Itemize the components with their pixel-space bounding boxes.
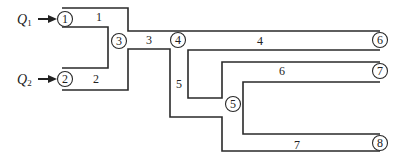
svg-text:1: 1 (62, 12, 68, 26)
node-1: 1 (58, 12, 73, 27)
inflow-q1-label: Q1 (17, 12, 32, 29)
node-4: 4 (171, 33, 186, 48)
pipe-wall-1-2-divider (62, 27, 108, 68)
svg-text:7: 7 (377, 64, 383, 78)
pipe-network-diagram: Q1 Q2 1 2 3 4 (0, 0, 402, 164)
svg-text:3: 3 (116, 34, 122, 48)
pipe-wall-bottom (62, 49, 380, 151)
pipe-label-2: 2 (93, 72, 99, 86)
pipe-label-1: 1 (96, 10, 102, 24)
svg-text:4: 4 (175, 33, 181, 47)
pipe-label-6: 6 (279, 64, 285, 78)
diagram-svg: Q1 Q2 1 2 3 4 (0, 0, 402, 164)
node-8: 8 (373, 136, 388, 151)
svg-text:5: 5 (230, 97, 236, 111)
pipe-label-7: 7 (294, 138, 300, 152)
svg-text:6: 6 (377, 33, 383, 47)
node-6: 6 (373, 33, 388, 48)
inflow-q1: Q1 (17, 12, 57, 29)
pipe-label-5: 5 (176, 77, 182, 91)
arrow-head-icon (48, 15, 57, 23)
pipe-label-3: 3 (146, 33, 152, 47)
pipe-wall-6-7 (243, 82, 380, 134)
node-5: 5 (226, 97, 241, 112)
pipe-wall-top (62, 8, 380, 31)
svg-text:8: 8 (377, 136, 383, 150)
node-2: 2 (58, 72, 73, 87)
node-7: 7 (373, 64, 388, 79)
node-3: 3 (112, 34, 127, 49)
inflow-q2-label: Q2 (17, 72, 32, 89)
arrow-head-icon (48, 75, 57, 83)
svg-text:2: 2 (62, 72, 68, 86)
pipe-label-4: 4 (257, 34, 263, 48)
inflow-q2: Q2 (17, 72, 57, 89)
